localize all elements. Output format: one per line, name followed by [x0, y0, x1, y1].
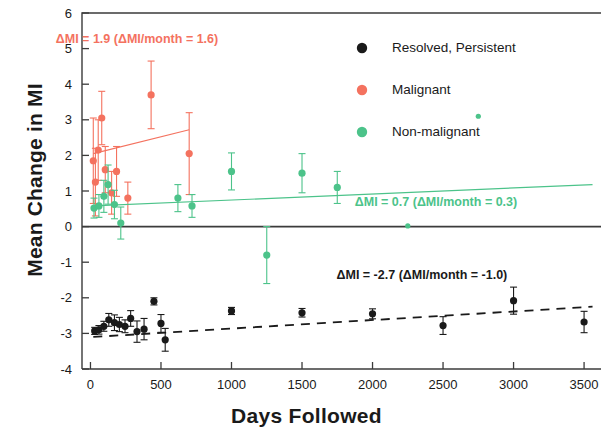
data-point	[150, 298, 157, 305]
data-point	[476, 114, 481, 119]
data-point	[174, 195, 181, 202]
legend-label: Non-malignant	[392, 124, 480, 139]
data-point	[510, 297, 517, 304]
trend-line	[93, 307, 592, 337]
data-point	[334, 184, 341, 191]
x-axis-tick-label: 3000	[499, 377, 528, 392]
x-axis-title: Days Followed	[0, 404, 613, 428]
y-axis-tick-label: -4	[60, 362, 72, 377]
data-point	[124, 195, 131, 202]
y-axis-tick-label: 1	[65, 184, 72, 199]
data-point	[228, 168, 235, 175]
data-point	[133, 328, 140, 335]
x-axis-tick-label: 500	[150, 377, 172, 392]
data-point	[369, 310, 376, 317]
trend-line	[93, 130, 189, 154]
x-axis-tick-label: 1000	[217, 377, 246, 392]
chart-svg: 6543210-1-2-3-40500100015002000250030003…	[0, 0, 613, 436]
data-point	[90, 157, 97, 164]
series-annotation: ΔMI = 1.9 (ΔMI/month = 1.6)	[56, 32, 218, 46]
data-point	[95, 146, 102, 153]
data-point	[104, 181, 111, 188]
x-axis-tick-label: 2500	[429, 377, 458, 392]
trend-line	[93, 185, 592, 206]
legend-marker	[357, 127, 367, 137]
x-axis-tick-label: 3500	[570, 377, 599, 392]
data-point	[100, 193, 107, 200]
x-axis-tick-label: 2000	[358, 377, 387, 392]
y-axis-tick-label: -3	[60, 326, 72, 341]
series-annotation: ΔMI = -2.7 (ΔMI/month = -1.0)	[337, 268, 508, 282]
data-point	[439, 322, 446, 329]
data-point	[121, 323, 128, 330]
data-point	[580, 318, 587, 325]
data-point	[298, 309, 305, 316]
data-point	[157, 320, 164, 327]
data-point	[405, 223, 410, 228]
data-point	[228, 307, 235, 314]
y-axis-tick-label: -1	[60, 255, 72, 270]
data-point	[263, 251, 270, 258]
data-point	[113, 168, 120, 175]
y-axis-title: Mean Change in MI	[23, 50, 47, 310]
y-axis-tick-label: 6	[65, 6, 72, 21]
y-axis-tick-label: 3	[65, 112, 72, 127]
y-axis-tick-label: 2	[65, 148, 72, 163]
y-axis-tick-label: 0	[65, 219, 72, 234]
legend-label: Malignant	[392, 82, 451, 97]
y-axis-tick-label: 4	[65, 77, 72, 92]
series-annotation: ΔMI = 0.7 (ΔMI/month = 0.3)	[355, 195, 517, 209]
y-axis-tick-label: -2	[60, 290, 72, 305]
legend-marker	[357, 85, 367, 95]
scatter-chart-figure: 6543210-1-2-3-40500100015002000250030003…	[0, 0, 613, 436]
data-point	[127, 315, 134, 322]
legend-label: Resolved, Persistent	[392, 40, 516, 55]
data-point	[95, 202, 102, 209]
data-point	[140, 326, 147, 333]
plot-frame	[82, 13, 601, 369]
data-point	[92, 179, 99, 186]
data-point	[100, 323, 107, 330]
legend-marker	[357, 43, 367, 53]
data-point	[98, 114, 105, 121]
data-point	[186, 150, 193, 157]
data-point	[298, 170, 305, 177]
data-point	[117, 219, 124, 226]
x-axis-tick-label: 1500	[288, 377, 317, 392]
x-axis-tick-label: 0	[87, 377, 94, 392]
data-point	[188, 202, 195, 209]
data-point	[148, 91, 155, 98]
data-point	[162, 336, 169, 343]
data-point	[111, 201, 118, 208]
